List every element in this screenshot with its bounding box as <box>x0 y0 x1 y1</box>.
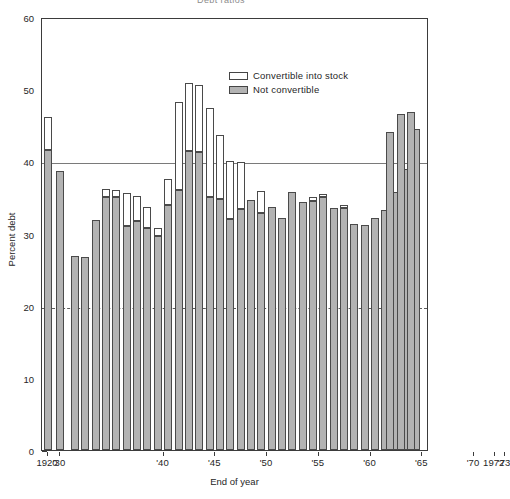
x-tick-label-1955: '55 <box>312 457 324 468</box>
bar-1938 <box>92 220 100 450</box>
bar-1936 <box>71 256 79 450</box>
bar-segment-not-convertible <box>56 171 64 450</box>
x-tick-mark-1950 <box>266 452 267 456</box>
bar-1946 <box>175 102 183 450</box>
bar-1952 <box>237 162 245 450</box>
bar-1970 <box>386 132 394 450</box>
bar-segment-not-convertible <box>44 150 52 450</box>
bar-1941 <box>123 193 131 450</box>
bar-segment-convertible <box>112 190 120 197</box>
x-tick-label-1950: '50 <box>260 457 272 468</box>
bar-segment-convertible <box>226 161 234 219</box>
bar-1930 <box>56 171 64 450</box>
bar-segment-not-convertible <box>195 152 203 450</box>
bar-1950 <box>216 135 224 450</box>
x-tick-mark-1945 <box>214 452 215 456</box>
bar-1939 <box>102 189 110 450</box>
x-tick-mark-1955 <box>318 452 319 456</box>
legend-label-not-convertible: Not convertible <box>253 84 319 95</box>
x-tick-label-1945: '45 <box>208 457 220 468</box>
x-tick-label-1973: '73 <box>498 457 510 468</box>
chart-legend: Convertible into stock Not convertible <box>229 69 348 97</box>
bar-1951 <box>226 161 234 450</box>
bar-1944 <box>154 228 162 450</box>
bar-1963 <box>350 224 358 450</box>
x-tick-mark-1920 <box>47 452 48 456</box>
y-tick-label-50: 50 <box>0 85 34 96</box>
bar-segment-not-convertible <box>257 213 265 450</box>
y-tick-label-60: 60 <box>0 13 34 24</box>
x-tick-mark-1960 <box>370 452 371 456</box>
legend-item-not-convertible: Not convertible <box>229 83 348 96</box>
bar-segment-not-convertible <box>92 220 100 450</box>
x-tick-mark-1965 <box>421 452 422 456</box>
bar-segment-not-convertible <box>407 112 415 450</box>
bar-1959 <box>309 197 317 450</box>
chart-title: Debt ratios <box>0 0 442 3</box>
bar-segment-not-convertible <box>123 226 131 450</box>
x-tick-mark-1970 <box>473 452 474 456</box>
bar-1958 <box>299 202 307 450</box>
x-tick-label-1960: '60 <box>363 457 375 468</box>
bar-segment-not-convertible <box>371 218 379 450</box>
bar-segment-not-convertible <box>299 202 307 450</box>
bar-1964 <box>361 225 369 450</box>
y-tick-label-20: 20 <box>0 301 34 312</box>
bar-1942 <box>133 196 141 450</box>
bar-segment-convertible <box>164 179 172 205</box>
x-tick-mark-1940 <box>163 452 164 456</box>
bar-segment-not-convertible <box>386 132 394 450</box>
x-tick-mark-1930 <box>59 452 60 456</box>
bar-1945 <box>164 179 172 450</box>
bar-segment-not-convertible <box>216 199 224 450</box>
bar-1965 <box>371 218 379 450</box>
legend-swatch-convertible-icon <box>229 72 248 80</box>
legend-swatch-not-convertible-icon <box>229 86 248 94</box>
bar-segment-not-convertible <box>81 257 89 450</box>
bar-segment-convertible <box>102 189 110 198</box>
legend-label-convertible: Convertible into stock <box>253 70 348 81</box>
bar-segment-convertible <box>216 135 224 199</box>
bar-segment-convertible <box>154 228 162 236</box>
bar-1956 <box>278 218 286 450</box>
bar-segment-not-convertible <box>102 197 110 450</box>
bar-segment-not-convertible <box>340 208 348 450</box>
bar-1960 <box>319 194 327 450</box>
bar-segment-not-convertible <box>330 208 338 450</box>
bar-1962 <box>340 205 348 450</box>
bar-1937 <box>81 257 89 450</box>
bar-segment-not-convertible <box>247 200 255 450</box>
bar-1948 <box>195 85 203 450</box>
legend-item-convertible: Convertible into stock <box>229 69 348 82</box>
bar-segment-not-convertible <box>278 218 286 450</box>
bar-1943 <box>143 207 151 450</box>
bar-segment-convertible <box>143 207 151 229</box>
bar-segment-not-convertible <box>112 197 120 450</box>
bar-segment-convertible <box>195 85 203 152</box>
bar-segment-not-convertible <box>288 192 296 450</box>
bar-segment-not-convertible <box>206 197 214 450</box>
bar-segment-not-convertible <box>154 236 162 450</box>
bar-segment-not-convertible <box>397 114 405 450</box>
bar-segment-not-convertible <box>133 221 141 450</box>
bar-1920 <box>44 117 52 450</box>
bar-segment-not-convertible <box>268 207 276 450</box>
x-tick-label-1930: '30 <box>53 457 65 468</box>
bar-1961 <box>330 208 338 450</box>
bar-segment-convertible <box>175 102 183 189</box>
bar-segment-convertible <box>237 162 245 209</box>
bar-1949 <box>206 108 214 450</box>
y-tick-label-30: 30 <box>0 229 34 240</box>
y-tick-label-0: 0 <box>0 446 34 457</box>
bar-1971 <box>397 114 405 450</box>
x-tick-label-1970: '70 <box>467 457 479 468</box>
bar-segment-convertible <box>185 83 193 152</box>
x-tick-mark-1972 <box>494 452 495 456</box>
bar-segment-not-convertible <box>226 219 234 450</box>
bar-1953 <box>247 200 255 450</box>
bar-1947 <box>185 83 193 450</box>
bar-segment-not-convertible <box>143 228 151 450</box>
bar-segment-convertible <box>44 117 52 150</box>
bar-segment-not-convertible <box>185 151 193 450</box>
